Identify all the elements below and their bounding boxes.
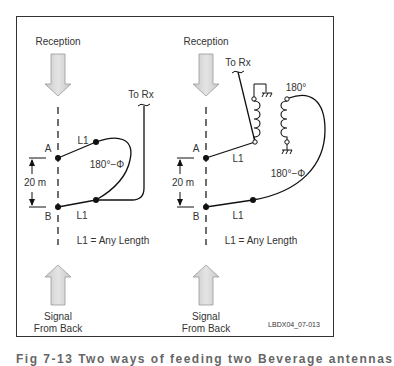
- left-panel: Reception To Rx A B L1 L1 180°−Φ 20 m L1…: [24, 36, 154, 334]
- point-b-dot: [203, 204, 209, 210]
- to-rx-label: To Rx: [225, 57, 251, 68]
- l1-bottom-label: L1: [76, 210, 88, 221]
- right-panel: Reception To Rx 180° A B: [172, 36, 325, 334]
- reception-arrow-icon: [45, 54, 71, 96]
- junction-dot: [93, 197, 99, 203]
- from-back-label: From Back: [34, 323, 83, 334]
- reception-label: Reception: [35, 36, 80, 47]
- signal-label: Signal: [192, 311, 220, 322]
- junction-dot: [250, 197, 256, 203]
- note-label: L1 = Any Length: [77, 235, 150, 246]
- phase-label: 180°−Φ: [90, 159, 125, 170]
- note-label: L1 = Any Length: [225, 235, 298, 246]
- figure-id: LBDX04_07-013: [268, 321, 320, 329]
- spacing-label: 20 m: [172, 177, 194, 188]
- figure-caption: Fig 7-13 Two ways of feeding two Beverag…: [16, 352, 394, 366]
- l1-top-label: L1: [232, 153, 244, 164]
- point-b-label: B: [45, 211, 52, 222]
- transformer-icon: [252, 84, 292, 154]
- to-rx-label: To Rx: [128, 89, 154, 100]
- point-a-label: A: [193, 143, 200, 154]
- point-b-dot: [55, 204, 61, 210]
- point-a-label: A: [45, 143, 52, 154]
- transformer-phase-label: 180°: [286, 82, 307, 93]
- from-back-label: From Back: [182, 323, 231, 334]
- spacing-label: 20 m: [24, 177, 46, 188]
- l1-top-label: L1: [77, 135, 89, 146]
- point-a-dot: [55, 155, 61, 161]
- l1-bottom-label: L1: [232, 210, 244, 221]
- signal-arrow-icon: [45, 265, 71, 305]
- point-b-label: B: [193, 211, 200, 222]
- point-a-dot: [203, 155, 209, 161]
- phase-label: 180°−Φ: [271, 168, 306, 179]
- junction-dot: [93, 139, 99, 145]
- signal-arrow-icon: [193, 265, 219, 305]
- reception-label: Reception: [183, 36, 228, 47]
- reception-arrow-icon: [193, 54, 219, 96]
- signal-label: Signal: [44, 311, 72, 322]
